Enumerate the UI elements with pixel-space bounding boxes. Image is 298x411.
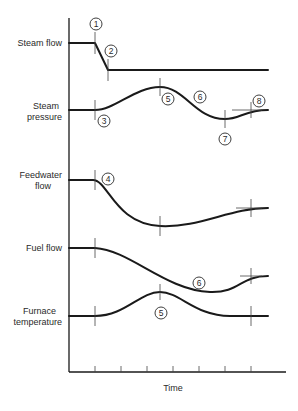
x-axis-label: Time: [163, 383, 183, 393]
marker-1: 1: [90, 18, 102, 30]
marker-6-pressure: 6: [194, 91, 206, 103]
label-feedwater-flow-1: Feedwater: [19, 170, 62, 180]
svg-text:1: 1: [94, 19, 99, 29]
boiler-response-diagram: Time Steam flow Steam pressure Feedwater…: [0, 0, 298, 411]
label-furnace-temperature-1: Furnace: [23, 306, 56, 316]
marker-8: 8: [253, 95, 265, 107]
marker-7: 7: [219, 133, 231, 145]
svg-text:8: 8: [257, 96, 262, 106]
curve-fuel-flow: [69, 248, 268, 292]
x-axis-ticks: [95, 366, 251, 372]
marker-5-pressure: 5: [162, 93, 174, 105]
svg-text:3: 3: [102, 116, 107, 126]
curve-feedwater-flow: [69, 180, 268, 226]
svg-text:6: 6: [198, 92, 203, 102]
label-fuel-flow: Fuel flow: [26, 243, 63, 253]
label-feedwater-flow-2: flow: [35, 181, 52, 191]
label-steam-flow: Steam flow: [17, 38, 62, 48]
marker-5-furnace: 5: [155, 307, 167, 319]
curve-steam-flow: [69, 43, 268, 70]
label-steam-pressure-1: Steam: [33, 101, 59, 111]
svg-text:7: 7: [223, 134, 228, 144]
label-steam-pressure-2: pressure: [27, 112, 62, 122]
svg-text:6: 6: [197, 278, 202, 288]
marker-4: 4: [102, 173, 114, 185]
marker-6-fuel: 6: [193, 277, 205, 289]
marker-2: 2: [105, 45, 117, 57]
curve-furnace-temperature: [69, 292, 268, 316]
svg-text:4: 4: [106, 174, 111, 184]
label-furnace-temperature-2: temperature: [13, 317, 62, 327]
marker-3: 3: [98, 115, 110, 127]
svg-text:2: 2: [109, 46, 114, 56]
svg-text:5: 5: [166, 94, 171, 104]
svg-text:5: 5: [159, 308, 164, 318]
